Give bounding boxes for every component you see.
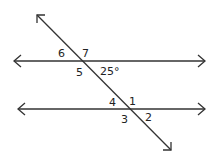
angle-label-given: 25°: [100, 65, 120, 78]
angle-label-7: 7: [82, 47, 89, 60]
diagram-svg: 6 7 5 25° 4 1 3 2: [0, 0, 214, 163]
geometry-diagram: 6 7 5 25° 4 1 3 2: [0, 0, 214, 163]
angle-label-1: 1: [129, 95, 136, 108]
angle-label-4: 4: [109, 96, 116, 109]
angle-label-6: 6: [58, 47, 65, 60]
transversal-line: [37, 15, 171, 150]
angle-label-3: 3: [121, 113, 128, 126]
angle-label-2: 2: [145, 111, 152, 124]
angle-label-5: 5: [76, 66, 83, 79]
